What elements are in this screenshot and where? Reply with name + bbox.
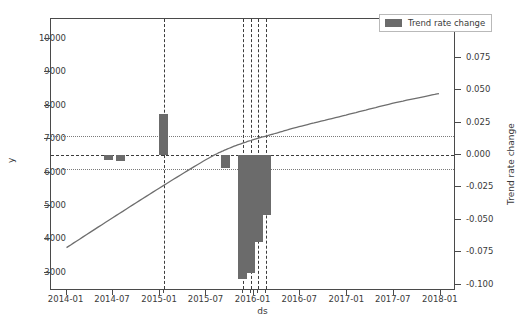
legend: Trend rate change [379,14,492,32]
x-minor-tick-mark [250,290,251,293]
x-minor-tick-mark [242,290,243,293]
legend-swatch-trend-rate-change [385,19,402,27]
secondary-y-tick-label: 0.050 [466,85,525,94]
bar [221,155,230,168]
bar [116,155,125,161]
secondary-y-axis-label: Trend rate change [506,123,516,205]
x-tick-mark [159,290,160,295]
bar [159,114,168,155]
secondary-y-tick-label: 0.075 [466,53,525,62]
secondary-y-tick-label: 0.000 [466,150,525,159]
secondary-y-tick-mark [455,186,461,187]
secondary-y-tick-label: -0.050 [466,215,525,224]
secondary-y-tick-mark [455,122,461,123]
clipped-header-text [0,0,525,6]
x-tick-mark [253,290,254,295]
x-axis-label: ds [0,306,525,316]
secondary-y-tick-label: 0.025 [466,118,525,127]
bar [104,155,113,160]
secondary-y-tick-label: -0.025 [466,182,525,191]
secondary-y-tick-mark [455,57,461,58]
changepoint-line [266,19,267,289]
secondary-y-tick-mark [455,219,461,220]
x-tick-mark [66,290,67,295]
x-tick-mark [440,290,441,295]
secondary-y-tick-mark [455,284,461,285]
legend-label-trend-rate-change: Trend rate change [408,18,485,28]
x-minor-tick-mark [265,290,266,293]
x-tick-mark [299,290,300,295]
x-tick-label: 2018-01 [405,295,475,304]
plot-area [50,18,455,290]
secondary-y-tick-mark [455,89,461,90]
secondary-y-tick-mark [455,154,461,155]
y-axis-label: y [6,158,16,163]
secondary-y-tick-label: -0.100 [466,280,525,289]
x-minor-tick-mark [257,290,258,293]
secondary-y-tick-mark [455,251,461,252]
bar [262,155,271,215]
x-tick-mark [112,290,113,295]
changepoint-line [258,19,259,289]
x-tick-mark [393,290,394,295]
x-tick-mark [346,290,347,295]
secondary-y-tick-label: -0.075 [466,247,525,256]
x-tick-mark [205,290,206,295]
x-minor-tick-mark [163,290,164,293]
figure: y Trend rate change ds 30004000500060007… [0,0,525,325]
upper-threshold-line [51,136,454,137]
